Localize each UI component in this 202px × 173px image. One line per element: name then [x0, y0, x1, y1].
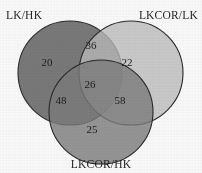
circle-lkcor-hk: [49, 60, 153, 164]
region-count-left-right: 36: [86, 40, 97, 51]
venn-circle-bottom: [49, 60, 153, 164]
region-count-bottom-only: 25: [87, 124, 98, 135]
region-count-left-only: 20: [42, 57, 53, 68]
set-label-lkcor-lk: LKCOR/LK: [139, 10, 198, 22]
set-label-lk-hk: LK/HK: [6, 10, 42, 22]
region-count-right-only: 22: [122, 57, 133, 68]
region-count-all-three: 26: [85, 79, 96, 90]
region-count-left-bottom: 48: [56, 95, 67, 106]
venn-diagram-figure: LK/HK LKCOR/LK LKCOR/HK 20362226485825: [0, 0, 202, 173]
region-count-right-bottom: 58: [115, 95, 126, 106]
venn-circles-group: [0, 0, 202, 173]
set-label-lkcor-hk: LKCOR/HK: [71, 159, 131, 171]
